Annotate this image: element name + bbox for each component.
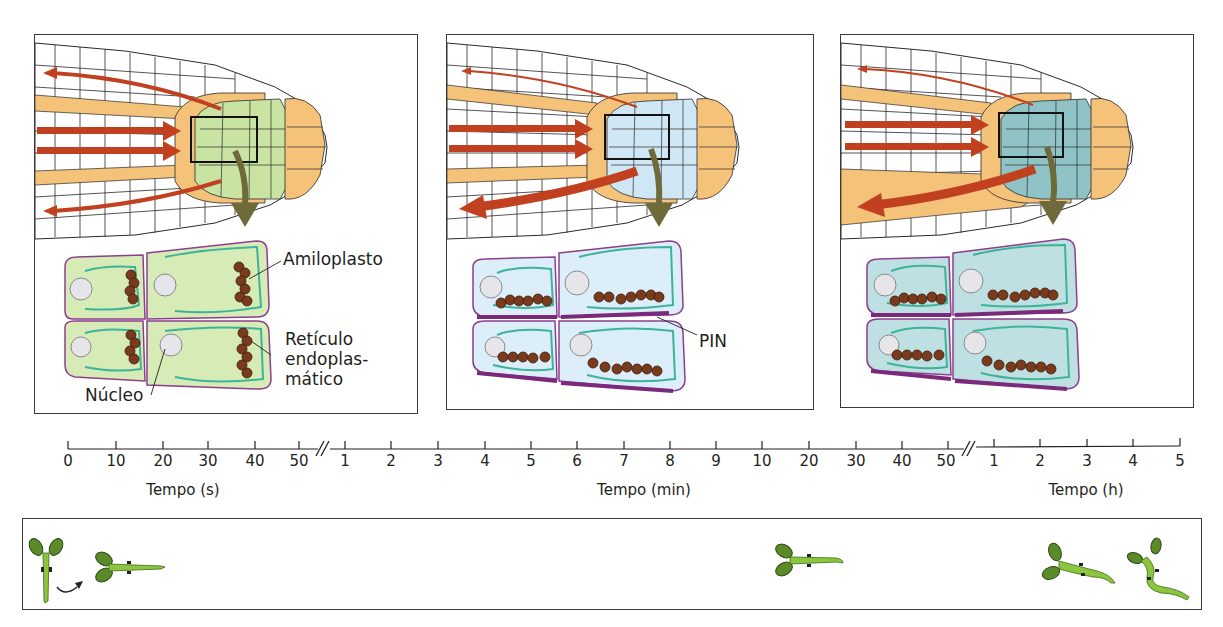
unit-hours: Tempo (h) [1048,481,1123,499]
tick-h-5: 5 [1175,452,1185,470]
panel-minutes: PIN [446,34,814,410]
tick-s-0: 0 [63,452,73,470]
tick-s-10: 10 [106,452,125,470]
tick-min-40: 40 [892,452,911,470]
panel-hours [840,34,1194,408]
unit-seconds: Tempo (s) [146,481,219,499]
tick-s-20: 20 [153,452,172,470]
root-tip-illustration [841,35,1194,408]
tick-s-40: 40 [245,452,264,470]
statocyte-cells [473,241,697,391]
tick-h-1: 1 [989,452,999,470]
tick-min-9: 9 [711,452,721,470]
panel-seconds: Amiloplasto Retículo endoplas- mático Nú… [34,34,418,414]
tick-s-30: 30 [198,452,217,470]
seedling-bending-start-icon [773,541,843,578]
tick-min-50: 50 [936,452,955,470]
tick-min-6: 6 [572,452,582,470]
label-er-line3: mático [285,369,343,389]
tick-min-5: 5 [526,452,536,470]
tick-h-4: 4 [1128,452,1138,470]
rotation-arrow-icon [57,581,83,592]
label-er-line1: Retículo [285,329,353,349]
tick-min-3: 3 [433,452,443,470]
unit-minutes: Tempo (min) [597,481,691,499]
tick-min-2: 2 [386,452,396,470]
tick-min-1: 1 [340,452,350,470]
seedling-bending-5h-icon [1126,537,1189,600]
root-tip-illustration [447,35,814,410]
label-pin: PIN [699,331,727,351]
tick-s-50: 50 [289,452,308,470]
tick-min-20: 20 [799,452,818,470]
label-amyloplast: Amiloplasto [283,249,383,269]
tick-h-2: 2 [1035,452,1045,470]
statocyte-cells [867,239,1079,389]
label-er-line2: endoplas- [285,349,368,369]
seedling-vertical-icon [26,536,65,603]
tick-min-8: 8 [665,452,675,470]
label-nucleus: Núcleo [85,385,143,405]
seedling-horizontal-icon [93,549,165,584]
tick-min-7: 7 [619,452,629,470]
seedling-bending-1h-icon [1040,541,1115,583]
statocyte-cells [65,241,281,395]
tick-min-10: 10 [752,452,771,470]
seedling-strip [22,518,1202,610]
tick-h-3: 3 [1082,452,1092,470]
tick-min-4: 4 [480,452,490,470]
tick-min-30: 30 [846,452,865,470]
